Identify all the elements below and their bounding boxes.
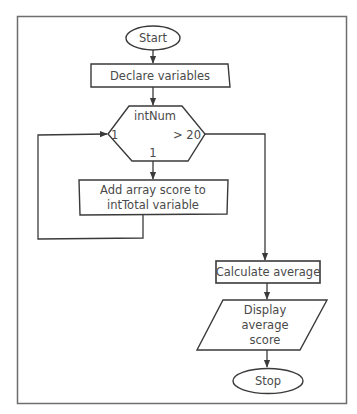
loop-end-label: > 20: [173, 128, 201, 142]
add-array-score-process: Add array score to intTotal variable: [79, 180, 228, 215]
loop-hexagon: intNum 1 > 20 1: [108, 106, 205, 161]
calculate-average-process: Calculate average: [216, 261, 320, 283]
flowchart: Start Declare variables intNum 1 > 20 1 …: [0, 0, 357, 414]
display-average-io: Display average score: [197, 300, 327, 350]
display-line1: Display: [244, 303, 287, 317]
start-label: Start: [139, 31, 168, 45]
add-array-score-line1: Add array score to: [100, 183, 206, 197]
loop-start-label: 1: [111, 128, 118, 142]
calculate-average-label: Calculate average: [216, 265, 320, 279]
display-line2: average: [241, 318, 288, 332]
display-line3: score: [250, 333, 281, 347]
loop-step-label: 1: [149, 146, 156, 160]
stop-terminator: Stop: [233, 369, 303, 394]
add-array-score-line2: intTotal variable: [107, 198, 199, 212]
declare-variables-process: Declare variables: [91, 64, 230, 87]
loop-variable-label: intNum: [134, 109, 176, 123]
stop-label: Stop: [255, 374, 281, 388]
declare-variables-label: Declare variables: [110, 69, 210, 83]
start-terminator: Start: [126, 26, 180, 50]
